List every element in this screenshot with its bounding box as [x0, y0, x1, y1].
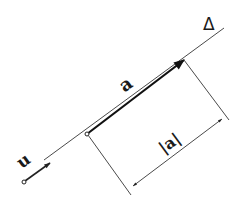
vector-a — [87, 60, 184, 134]
u-origin-point — [22, 180, 26, 184]
label-delta: Δ — [203, 14, 215, 34]
magnitude-dimension-line — [133, 119, 222, 186]
label-u: u — [12, 149, 34, 172]
perp-line-origin — [88, 135, 131, 195]
label-a: a — [114, 72, 136, 96]
perp-line-tip — [184, 60, 229, 120]
label-magnitude: |a| — [155, 129, 184, 157]
vector-diagram: u a |a| Δ — [0, 0, 238, 203]
line-delta — [44, 28, 224, 160]
